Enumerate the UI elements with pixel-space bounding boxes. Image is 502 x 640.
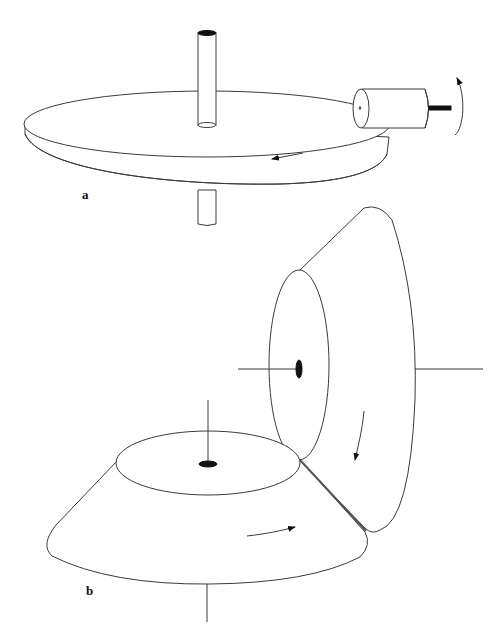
drive-roller [353, 89, 429, 128]
panel-b: b [47, 207, 483, 622]
lower-shaft [198, 190, 216, 226]
vertical-cone-hub [296, 360, 302, 378]
panel-label-a: a [82, 187, 89, 202]
mechanism-figure: a b [0, 0, 502, 640]
rotation-arrow-roller [455, 78, 463, 135]
horizontal-cone-hub [199, 461, 217, 467]
panel-label-b: b [86, 583, 93, 598]
roller-shaft [429, 106, 451, 110]
panel-a: a [24, 31, 463, 226]
shaft-top-cap [198, 31, 216, 36]
vertical-shaft [198, 31, 216, 128]
